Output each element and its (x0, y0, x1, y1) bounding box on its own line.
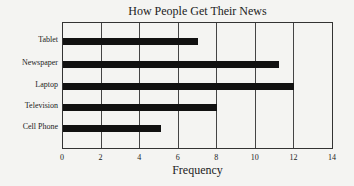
x-tick-label: 6 (176, 153, 180, 162)
x-tick-label: 4 (137, 153, 141, 162)
x-tick-label: 2 (99, 153, 103, 162)
bar (63, 83, 294, 90)
bar (63, 104, 217, 111)
category-label: Laptop (35, 80, 58, 89)
bar (63, 125, 161, 132)
category-label: Tablet (38, 35, 58, 44)
x-tick-label: 14 (328, 153, 336, 162)
x-tick-label: 8 (214, 153, 218, 162)
chart-title: How People Get Their News (62, 4, 333, 19)
plot-area (62, 22, 333, 149)
category-label: Television (25, 101, 58, 110)
category-label: Cell Phone (23, 122, 58, 131)
bar (63, 61, 279, 68)
category-label: Newspaper (22, 58, 58, 67)
x-axis-label: Frequency (62, 163, 333, 178)
x-tick-label: 10 (251, 153, 259, 162)
bar (63, 38, 198, 45)
x-tick-label: 0 (60, 153, 64, 162)
x-tick-label: 12 (289, 153, 297, 162)
